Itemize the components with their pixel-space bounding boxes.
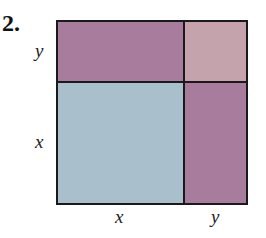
region-bottom-right xyxy=(185,83,246,203)
label-bottom-y: y xyxy=(211,206,219,228)
region-top-right xyxy=(185,22,246,83)
label-left-x: x xyxy=(35,131,43,153)
label-left-y: y xyxy=(35,40,43,62)
region-bottom-left xyxy=(58,83,185,203)
area-model-square xyxy=(56,20,248,205)
horizontal-divider xyxy=(58,81,246,83)
problem-number: 2. xyxy=(2,10,20,37)
label-bottom-x: x xyxy=(115,206,123,228)
region-top-left xyxy=(58,22,185,83)
vertical-divider xyxy=(183,22,185,203)
